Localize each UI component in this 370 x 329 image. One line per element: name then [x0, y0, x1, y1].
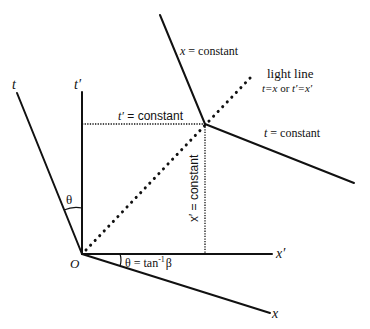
light-line-equation: t=x or t′=x′ — [262, 82, 313, 94]
x-prime-constant-label: x′ = constant — [187, 154, 201, 222]
t-prime-constant-label: t′ = constant — [118, 109, 184, 123]
theta-arc-top — [64, 207, 82, 210]
theta-arc-bottom — [120, 254, 121, 266]
theta-label-top: θ — [66, 192, 72, 207]
t-axis — [17, 93, 82, 254]
spacetime-diagram: t t′ x′ x O x = constant t = constant t′… — [0, 0, 370, 329]
origin-label: O — [70, 256, 80, 271]
x-constant-line — [160, 15, 205, 124]
light-line — [86, 77, 251, 250]
x-axis — [82, 254, 270, 313]
light-line-title: light line — [267, 66, 314, 81]
x-constant-label: x = constant — [179, 44, 239, 58]
theta-tan-label: θ = tan-1β — [125, 255, 172, 270]
t-axis-label: t — [12, 77, 17, 92]
x-axis-label: x — [271, 306, 279, 321]
t-prime-axis-label: t′ — [74, 77, 82, 92]
x-prime-axis-label: x′ — [275, 246, 286, 261]
t-constant-label: t = constant — [264, 126, 321, 140]
